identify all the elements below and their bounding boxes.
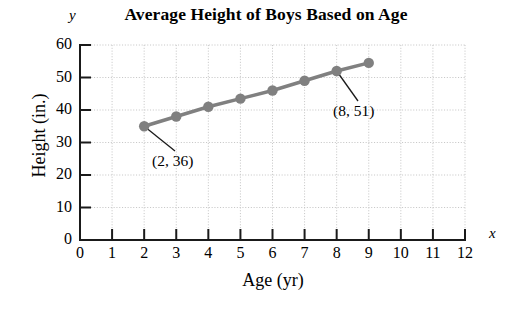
data-point-marker: [203, 102, 213, 112]
x-axis-ticks: [112, 229, 465, 240]
annotation-leader-lines: [144, 71, 358, 151]
y-tick-label: 60: [38, 36, 72, 52]
data-point-marker: [331, 66, 341, 76]
data-point-marker: [364, 58, 374, 68]
x-tick-label: 9: [356, 245, 382, 261]
x-tick-label: 11: [420, 245, 446, 261]
x-tick-label: 8: [324, 245, 350, 261]
y-tick-label: 50: [38, 69, 72, 85]
x-tick-label: 12: [452, 245, 478, 261]
plot-area: [0, 0, 517, 312]
data-point-marker: [235, 93, 245, 103]
x-tick-label: 6: [260, 245, 286, 261]
x-tick-label: 4: [195, 245, 221, 261]
y-tick-label: 10: [38, 199, 72, 215]
point-annotation: (8, 51): [333, 102, 374, 120]
annotation-leader-line: [144, 126, 175, 151]
y-tick-label: 40: [38, 101, 72, 117]
annotation-leader-line: [337, 71, 358, 101]
y-axis-ticks: [80, 45, 91, 208]
y-tick-label: 20: [38, 166, 72, 182]
data-point-marker: [267, 85, 277, 95]
point-annotation: (2, 36): [152, 152, 193, 170]
data-point-marker: [171, 111, 181, 121]
x-tick-label: 7: [292, 245, 318, 261]
x-tick-label: 5: [227, 245, 253, 261]
x-tick-label: 3: [163, 245, 189, 261]
x-tick-label: 1: [99, 245, 125, 261]
x-tick-label: 2: [131, 245, 157, 261]
y-tick-label: 30: [38, 134, 72, 150]
chart-figure: Average Height of Boys Based on Age y x …: [0, 0, 517, 312]
x-tick-label: 10: [388, 245, 414, 261]
data-point-marker: [299, 76, 309, 86]
x-tick-label: 0: [67, 245, 93, 261]
data-point-marker: [139, 121, 149, 131]
